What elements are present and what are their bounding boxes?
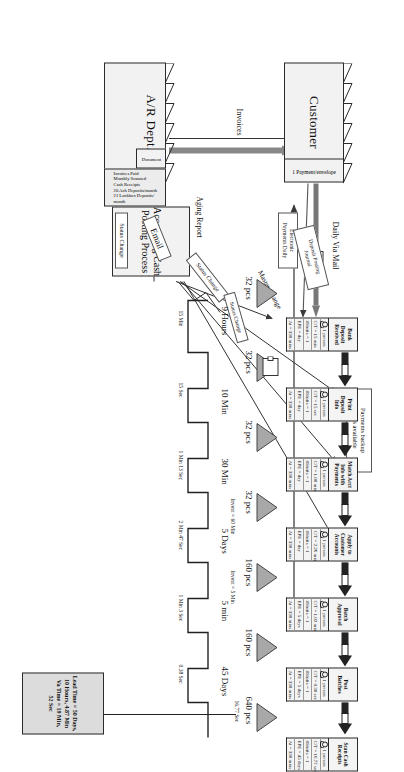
process-data-1: 1 person C/T = 15 sec #Shifts = 1 EPE = …	[286, 387, 328, 421]
process-at-1: At = 330 mins	[287, 388, 294, 420]
inventory-triangle-icon-3	[256, 492, 278, 522]
process-at-2: At = 330 mins	[287, 458, 294, 490]
process-at-0: At = 330 mins	[287, 318, 294, 350]
process-data-2: 1 person C/T = 1.08 min #Shifts = 1 EPE …	[286, 457, 328, 491]
status-change-box-1: Status Change	[115, 212, 128, 268]
process-operators-5: 1 person	[320, 668, 328, 700]
process-at-3: At = 330 mins	[287, 528, 294, 560]
ar-notes-label: Invoices Paid Monthly Scanned Cash Recei…	[113, 170, 156, 204]
document-icon	[260, 356, 280, 378]
process-epe-3: EPE = day	[294, 528, 302, 560]
ar-roof-icon	[165, 63, 178, 181]
process-data-0: 1 person C/T = 15 min #Shifts = 1 EPE = …	[286, 317, 328, 351]
process-name-4: Batch Approval	[337, 603, 350, 625]
inventory-qty-6: 640 pcs	[244, 696, 254, 724]
lead-time-label-5: 45 Days	[220, 666, 230, 696]
operator-icon	[321, 390, 328, 397]
deposit-posting-journal-text: Deposit Posting Journal	[300, 238, 322, 276]
process-data-3: 1 person C/T = 2.26 min #Shifts = 1 EPE …	[286, 527, 328, 561]
ar-notes-box: Invoices Paid Monthly Scanned Cash Recei…	[104, 168, 166, 206]
va-time-label-0: 15 Min	[178, 310, 184, 326]
ar-document-badge: Document	[136, 148, 166, 168]
process-epe-4: EPE = 5 days	[294, 598, 302, 630]
inventory-triangle-icon-0	[256, 278, 278, 308]
process-epe-5: EPE = 5 days	[294, 668, 302, 700]
process-shifts-4: #Shifts = 1	[303, 598, 311, 630]
lead-time-label-3: 5 Days	[220, 528, 230, 553]
process-name-3: Apply to Customer Accounts	[333, 533, 352, 556]
process-epe-0: EPE = day	[294, 318, 302, 350]
process-data-6: 1 personC/T = 16.77 sec#Shifts = 1EPE = …	[286, 737, 328, 771]
process-at-4: At = 330 mins	[287, 598, 294, 630]
electronic-payments-text: Electronic Payments Daily	[281, 222, 294, 258]
process-at-6: At = 330 mins	[287, 738, 294, 770]
inventory-triangle-icon-5	[256, 632, 278, 662]
process-ct-4: C/T = 1.02 min	[311, 598, 319, 630]
extra-va-label-1: Invent = 5 Min	[230, 570, 236, 603]
extra-va-label-0: Invent = 60 Min	[230, 498, 236, 534]
status-change-text-2: Status Change	[194, 261, 221, 293]
process-ct-6: C/T = 16.77 sec	[311, 738, 319, 770]
lead-time-label-1: 10 Min	[220, 388, 230, 414]
process-operators-6: 1 person	[320, 738, 328, 770]
inventory-triangle-icon-6	[256, 702, 278, 732]
process-operators-0: 1 person	[320, 318, 328, 350]
process-shifts-2: #Shifts = 1	[303, 458, 311, 490]
operator-icon	[321, 600, 328, 607]
status-change-text-1: Status Change	[118, 223, 125, 258]
process-ct-1: C/T = 15 sec	[311, 388, 319, 420]
va-time-label-6: 16.77 Sec	[234, 700, 240, 722]
aging-report-text: Aging Report	[195, 196, 204, 237]
push-arrow-icon-0	[338, 352, 352, 386]
va-time-label-3: 2 Min 47 Sec	[178, 520, 184, 550]
customer-label: Customer	[306, 96, 322, 149]
process-name-1: Print Deposit Info	[333, 395, 352, 412]
customer-note-label: 1 Payment/envelope	[292, 168, 336, 174]
entity-roof-icon	[343, 63, 356, 181]
lead-time-label-4: 5 min	[220, 600, 230, 621]
summary-text: Lead Time = 50 Days, 10 Hours, 4.87 Min …	[47, 675, 79, 731]
process-ct-5: C/T = 0.38 sec	[311, 668, 319, 700]
process-epe-6: EPE = 45 days	[294, 738, 302, 770]
process-shifts-5: #Shifts = 1	[303, 668, 311, 700]
process-shifts-0: #Shifts = 1	[303, 318, 311, 350]
status-change-text-3: Status Change	[228, 301, 243, 334]
va-time-label-5: 0.38 Sec	[178, 664, 184, 683]
process-shifts-3: #Shifts = 1	[303, 528, 311, 560]
daily-via-mail-label: Daily Via Mail	[329, 214, 342, 276]
inventory-qty-4: 160 pcs	[244, 558, 254, 586]
summary-box: Lead Time = 50 Days, 10 Hours, 4.87 Min …	[22, 672, 104, 734]
process-box-5: Post Batches	[328, 667, 358, 701]
va-time-label-4: 1 Min 3 Sec	[178, 594, 184, 621]
process-box-6: Scan Cash Receipts	[328, 737, 358, 771]
invoices-text: Invoices	[235, 108, 244, 135]
process-data-5: 1 person C/T = 0.38 sec #Shifts = 1 EPE …	[286, 667, 328, 701]
process-box-1: Print Deposit Info	[328, 387, 358, 421]
va-time-label-2: 1 Min 13 Sec	[178, 450, 184, 480]
push-arrow-icon-2	[338, 492, 352, 526]
process-operators-2: 1 person	[320, 458, 328, 490]
push-arrow-icon-4	[338, 632, 352, 666]
daily-via-mail-text: Daily Via Mail	[331, 221, 341, 269]
inventory-triangle-icon-4	[256, 562, 278, 592]
invoices-label: Invoices	[232, 108, 244, 148]
process-name-2: Match Acct Info with Payments	[333, 461, 352, 488]
push-arrow-icon-5	[338, 702, 352, 734]
ar-document-label: Document	[141, 156, 160, 161]
inventory-qty-3: 32 pcs	[244, 490, 254, 513]
process-name-0: Bank Deposit Received	[333, 324, 352, 345]
process-operators-4: 1 person	[320, 598, 328, 630]
process-box-2: Match Acct Info with Payments	[328, 457, 358, 491]
operator-icon	[321, 530, 328, 537]
operator-icon	[321, 460, 328, 467]
customer-note: 1 Payment/envelope	[284, 158, 344, 182]
process-data-4: 1 person C/T = 1.02 min #Shifts = 1 EPE …	[286, 597, 328, 631]
lead-time-label-2: 30 Min	[220, 458, 230, 484]
process-ct-0: C/T = 15 min	[311, 318, 319, 350]
process-operators-3: 1 person	[320, 528, 328, 560]
process-box-4: Batch Approval	[328, 597, 358, 631]
process-shifts-6: #Shifts = 1	[303, 738, 311, 770]
inventory-qty-2: 32 pcs	[244, 420, 254, 443]
inventory-qty-0: 32 pcs	[244, 276, 254, 299]
